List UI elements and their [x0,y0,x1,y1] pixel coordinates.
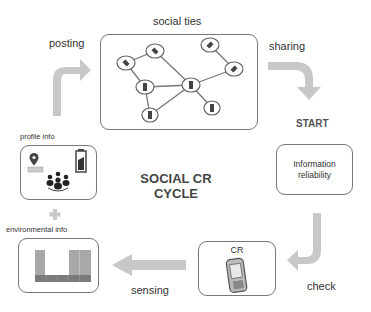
bar-chart-icon [0,0,371,312]
title-line1: SOCIAL CR [136,171,216,186]
diagram-title: SOCIAL CR CYCLE [136,171,216,201]
title-line2: CYCLE [136,186,216,201]
